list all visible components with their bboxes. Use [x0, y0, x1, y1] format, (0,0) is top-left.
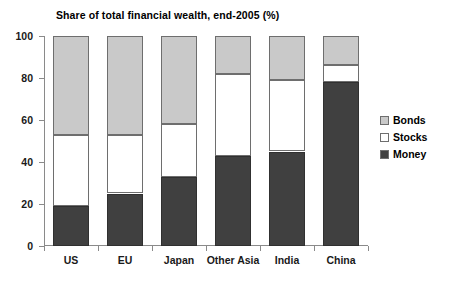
y-tick-label: 0 — [3, 241, 33, 252]
x-tick-label: China — [301, 255, 381, 266]
y-tick-mark — [39, 78, 44, 79]
bar-group[interactable] — [215, 36, 251, 246]
y-tick-mark — [39, 204, 44, 205]
bar-group[interactable] — [161, 36, 197, 246]
bar-segment-stocks[interactable] — [161, 124, 197, 177]
legend-item-stocks[interactable]: Stocks — [380, 130, 427, 145]
bar-group[interactable] — [107, 36, 143, 246]
x-tick-mark — [206, 246, 207, 251]
legend-label: Stocks — [393, 132, 427, 143]
y-tick-mark — [39, 120, 44, 121]
bar-segment-money[interactable] — [161, 177, 197, 246]
bar-segment-stocks[interactable] — [323, 65, 359, 82]
x-tick-mark — [44, 246, 45, 251]
y-tick-mark — [39, 36, 44, 37]
legend-label: Bonds — [393, 115, 426, 126]
bar-segment-money[interactable] — [53, 206, 89, 246]
bar-segment-money[interactable] — [107, 194, 143, 247]
page-title: Share of total financial wealth, end-200… — [56, 9, 279, 21]
bar-segment-stocks[interactable] — [53, 135, 89, 206]
y-tick-label: 100 — [3, 31, 33, 42]
bar-segment-bonds[interactable] — [161, 36, 197, 124]
bar-group[interactable] — [323, 36, 359, 246]
x-tick-mark — [368, 246, 369, 251]
bar-segment-money[interactable] — [269, 152, 305, 247]
bar-segment-bonds[interactable] — [323, 36, 359, 65]
legend-swatch-icon — [380, 116, 389, 125]
x-tick-mark — [314, 246, 315, 251]
legend-item-money[interactable]: Money — [380, 147, 427, 162]
y-tick-label: 40 — [3, 157, 33, 168]
bar-segment-money[interactable] — [323, 82, 359, 246]
chart-page: Share of total financial wealth, end-200… — [0, 0, 456, 284]
plot-area — [44, 36, 368, 246]
y-tick-label: 60 — [3, 115, 33, 126]
legend-item-bonds[interactable]: Bonds — [380, 113, 427, 128]
legend-label: Money — [393, 149, 426, 160]
bar-segment-bonds[interactable] — [53, 36, 89, 135]
bar-segment-bonds[interactable] — [215, 36, 251, 74]
bar-segment-bonds[interactable] — [269, 36, 305, 80]
bar-segment-stocks[interactable] — [269, 80, 305, 151]
legend-swatch-icon — [380, 133, 389, 142]
y-tick-mark — [39, 162, 44, 163]
bar-segment-bonds[interactable] — [107, 36, 143, 135]
bar-segment-stocks[interactable] — [107, 135, 143, 194]
x-tick-mark — [152, 246, 153, 251]
bar-group[interactable] — [269, 36, 305, 246]
x-tick-mark — [260, 246, 261, 251]
bar-segment-money[interactable] — [215, 156, 251, 246]
bar-group[interactable] — [53, 36, 89, 246]
legend-swatch-icon — [380, 150, 389, 159]
y-tick-label: 20 — [3, 199, 33, 210]
y-tick-label: 80 — [3, 73, 33, 84]
legend: BondsStocksMoney — [380, 113, 427, 164]
x-tick-mark — [98, 246, 99, 251]
bar-segment-stocks[interactable] — [215, 74, 251, 156]
